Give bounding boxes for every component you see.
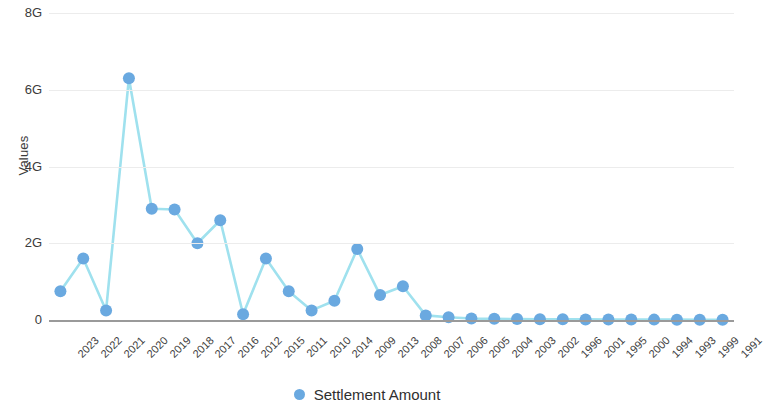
legend-item-label: Settlement Amount [314, 386, 441, 403]
data-point[interactable] [306, 304, 318, 316]
data-point[interactable] [260, 253, 272, 265]
x-axis-tick-label: 2007 [441, 334, 467, 360]
data-point[interactable] [123, 72, 135, 84]
x-axis-tick-label: 2021 [121, 334, 147, 360]
x-axis-tick-label: 1993 [692, 334, 718, 360]
x-axis-tick-label: 2000 [646, 334, 672, 360]
data-point[interactable] [100, 304, 112, 316]
data-point[interactable] [328, 295, 340, 307]
x-axis-tick-label: 2003 [532, 334, 558, 360]
data-point[interactable] [397, 280, 409, 292]
x-axis-tick-label: 1999 [715, 334, 741, 360]
x-axis-tick-label: 2008 [418, 334, 444, 360]
x-axis-tick-label: 2001 [601, 334, 627, 360]
x-axis-tick-label: 2015 [281, 334, 307, 360]
data-point[interactable] [443, 311, 455, 323]
x-axis-tick-label: 2004 [509, 334, 535, 360]
gridline [49, 243, 734, 244]
data-point[interactable] [214, 214, 226, 226]
x-axis-tick-label: 2020 [144, 334, 170, 360]
data-point[interactable] [374, 289, 386, 301]
data-point[interactable] [169, 203, 181, 215]
data-point[interactable] [283, 285, 295, 297]
data-point[interactable] [146, 203, 158, 215]
x-axis-tick-label: 2019 [167, 334, 193, 360]
gridline [49, 90, 734, 91]
x-axis-tick-label: 2023 [76, 334, 102, 360]
data-point[interactable] [237, 308, 249, 320]
x-axis-tick-label: 2002 [555, 334, 581, 360]
gridline [49, 167, 734, 168]
legend-marker-icon [294, 389, 305, 400]
series-line [60, 78, 722, 319]
data-point[interactable] [351, 243, 363, 255]
x-axis-tick-label: 1994 [669, 334, 695, 360]
data-point[interactable] [54, 285, 66, 297]
x-axis-tick-label: 2013 [395, 334, 421, 360]
x-axis-tick-label: 2018 [190, 334, 216, 360]
data-point[interactable] [77, 253, 89, 265]
x-axis-tick-label: 2009 [372, 334, 398, 360]
x-axis-tick-label: 2005 [487, 334, 513, 360]
data-point[interactable] [465, 312, 477, 324]
x-axis-baseline [49, 320, 734, 322]
x-axis-tick-label: 2014 [350, 334, 376, 360]
chart-legend: Settlement Amount [0, 383, 734, 405]
x-axis-tick-label: 2017 [213, 334, 239, 360]
x-axis-tick-label: 2010 [327, 334, 353, 360]
plot-svg [0, 0, 734, 340]
x-axis-tick-label: 2006 [464, 334, 490, 360]
x-axis-tick-label: 2012 [258, 334, 284, 360]
gridline [49, 13, 734, 14]
x-axis-tick-label: 2022 [98, 334, 124, 360]
plot-area [0, 0, 734, 340]
x-axis-tick-label: 1995 [624, 334, 650, 360]
x-axis-tick-labels: 2023202220212020201920182017201620122015… [0, 324, 734, 384]
x-axis-tick-label: 1996 [578, 334, 604, 360]
x-axis-tick-label: 2016 [235, 334, 261, 360]
x-axis-tick-label: 1991 [738, 334, 764, 360]
x-axis-tick-label: 2011 [304, 334, 329, 359]
